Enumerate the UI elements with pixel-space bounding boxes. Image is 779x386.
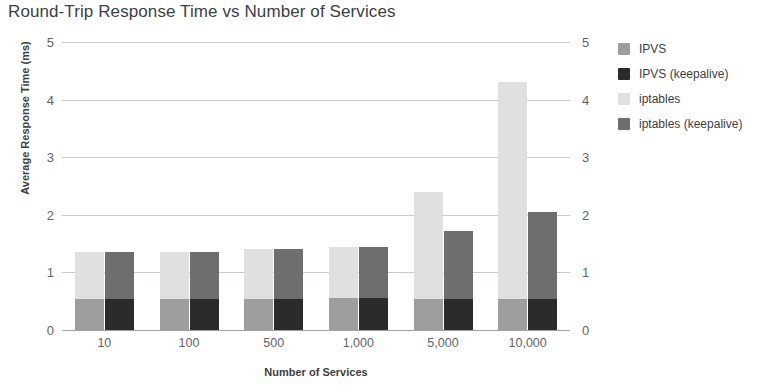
bar-group xyxy=(414,42,473,330)
y-axis-left-ticks: 012345 xyxy=(34,42,54,330)
y-tick-label-right: 0 xyxy=(582,324,604,337)
bar-left[interactable] xyxy=(160,252,189,330)
legend: IPVSIPVS (keepalive)iptablesiptables (ke… xyxy=(618,36,774,136)
bar-left[interactable] xyxy=(414,192,443,330)
bar-group xyxy=(498,42,557,330)
bar-left[interactable] xyxy=(329,246,358,330)
legend-item[interactable]: IPVS (keepalive) xyxy=(618,61,774,86)
legend-item[interactable]: iptables (keepalive) xyxy=(618,111,774,136)
legend-item-label: IPVS xyxy=(639,43,666,55)
legend-swatch-icon xyxy=(618,43,630,55)
bar-left[interactable] xyxy=(244,249,273,330)
x-tick-label: 10,000 xyxy=(509,336,547,350)
y-tick-label: 4 xyxy=(34,93,54,106)
x-axis-ticks: 101005001,0005,00010,000 xyxy=(62,336,570,356)
legend-item[interactable]: iptables xyxy=(618,86,774,111)
x-tick-label: 500 xyxy=(263,336,284,350)
bar-segment-iptables-keepalive[interactable] xyxy=(105,252,134,299)
plot-area xyxy=(62,42,570,330)
bar-segment-ipvs-keepalive[interactable] xyxy=(190,299,219,330)
bar-group xyxy=(160,42,219,330)
bar-right[interactable] xyxy=(444,231,473,330)
bar-segment-ipvs[interactable] xyxy=(414,299,443,330)
bar-segment-iptables-keepalive[interactable] xyxy=(359,247,388,298)
x-tick-label: 5,000 xyxy=(427,336,458,350)
bar-right[interactable] xyxy=(105,252,134,330)
bar-segment-ipvs[interactable] xyxy=(160,299,189,330)
bar-segment-iptables-keepalive[interactable] xyxy=(190,252,219,299)
y-axis-right-ticks: 012345 xyxy=(582,42,604,330)
y-tick-label: 1 xyxy=(34,266,54,279)
bar-group xyxy=(329,42,388,330)
bar-right[interactable] xyxy=(528,212,557,330)
y-tick-label: 5 xyxy=(34,36,54,49)
bars-layer xyxy=(62,42,570,330)
bar-segment-iptables[interactable] xyxy=(498,82,527,299)
legend-item-label: iptables xyxy=(639,93,680,105)
bar-segment-ipvs[interactable] xyxy=(75,299,104,330)
legend-swatch-icon xyxy=(618,118,630,130)
legend-swatch-icon xyxy=(618,68,630,80)
y-tick-label: 0 xyxy=(34,324,54,337)
bar-segment-iptables[interactable] xyxy=(329,247,358,299)
chart-title: Round-Trip Response Time vs Number of Se… xyxy=(8,2,396,22)
legend-item[interactable]: IPVS xyxy=(618,36,774,61)
bar-segment-ipvs[interactable] xyxy=(244,299,273,330)
bar-segment-ipvs-keepalive[interactable] xyxy=(359,298,388,330)
bar-segment-iptables[interactable] xyxy=(75,252,104,299)
x-tick-label: 1,000 xyxy=(343,336,374,350)
legend-swatch-icon xyxy=(618,93,630,105)
bar-segment-iptables[interactable] xyxy=(414,192,443,299)
bar-left[interactable] xyxy=(75,252,104,330)
x-axis-title: Number of Services xyxy=(62,366,570,378)
y-tick-label-right: 5 xyxy=(582,36,604,49)
gridline xyxy=(62,330,570,331)
y-tick-label-right: 1 xyxy=(582,266,604,279)
bar-segment-ipvs[interactable] xyxy=(498,299,527,330)
bar-left[interactable] xyxy=(498,82,527,330)
bar-segment-iptables[interactable] xyxy=(160,252,189,299)
bar-segment-ipvs[interactable] xyxy=(329,298,358,330)
bar-segment-ipvs-keepalive[interactable] xyxy=(444,299,473,330)
legend-item-label: iptables (keepalive) xyxy=(639,118,742,130)
bar-right[interactable] xyxy=(190,252,219,330)
bar-segment-ipvs-keepalive[interactable] xyxy=(528,299,557,330)
bar-group xyxy=(75,42,134,330)
x-tick-label: 100 xyxy=(179,336,200,350)
bar-segment-iptables-keepalive[interactable] xyxy=(274,249,303,299)
bar-segment-ipvs-keepalive[interactable] xyxy=(274,299,303,330)
y-tick-label-right: 4 xyxy=(582,93,604,106)
legend-item-label: IPVS (keepalive) xyxy=(639,68,728,80)
chart-container: Round-Trip Response Time vs Number of Se… xyxy=(0,0,779,386)
y-tick-label-right: 3 xyxy=(582,151,604,164)
y-tick-label: 3 xyxy=(34,151,54,164)
bar-segment-ipvs-keepalive[interactable] xyxy=(105,299,134,330)
y-tick-label-right: 2 xyxy=(582,208,604,221)
y-axis-title: Average Response Time (ms) xyxy=(19,23,31,213)
y-tick-label: 2 xyxy=(34,208,54,221)
bar-segment-iptables-keepalive[interactable] xyxy=(444,231,473,299)
bar-segment-iptables-keepalive[interactable] xyxy=(528,212,557,299)
bar-right[interactable] xyxy=(274,249,303,330)
bar-segment-iptables[interactable] xyxy=(244,249,273,299)
bar-group xyxy=(244,42,303,330)
bar-right[interactable] xyxy=(359,247,388,330)
x-tick-label: 10 xyxy=(97,336,111,350)
